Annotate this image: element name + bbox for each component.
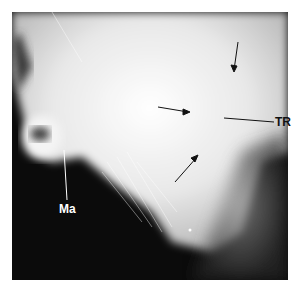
radiograph-image [12,12,288,280]
radiograph-graphic [12,12,288,280]
label-tr: TR [275,115,291,129]
label-ma: Ma [59,202,76,216]
